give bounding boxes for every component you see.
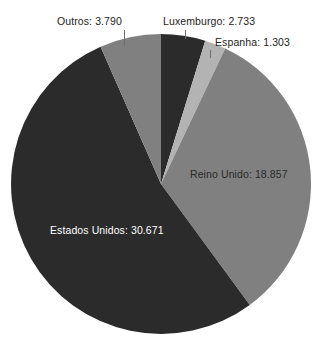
slice-label-espanha: Espanha: 1.303 bbox=[215, 36, 290, 48]
slice-label-estados-unidos: Estados Unidos: 30.671 bbox=[50, 224, 164, 236]
leader-line-espanha bbox=[210, 50, 211, 58]
slice-label-outros: Outros: 3.790 bbox=[57, 15, 122, 27]
slice-label-reino-unido: Reino Unido: 18.857 bbox=[190, 168, 288, 180]
pie-slice-group bbox=[11, 34, 311, 334]
leader-line-outros bbox=[124, 30, 125, 46]
slice-label-luxemburgo: Luxemburgo: 2.733 bbox=[163, 15, 255, 27]
leader-line-luxemburgo bbox=[185, 30, 186, 39]
pie-chart: Outros: 3.790 Luxemburgo: 2.733 Espanha:… bbox=[0, 0, 327, 352]
